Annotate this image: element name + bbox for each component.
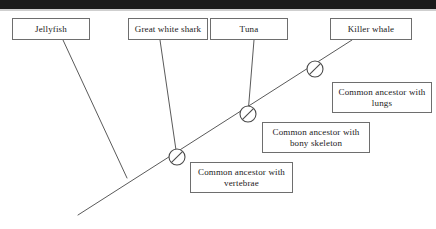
branch-to-great-white-shark — [160, 40, 177, 157]
taxon-box-great-white-shark[interactable]: Great white shark — [128, 18, 208, 40]
ancestor-label: Common ancestor with lungs — [333, 87, 431, 109]
crossed-circle-node-vertebrae[interactable] — [169, 149, 185, 165]
taxon-box-jellyfish[interactable]: Jellyfish — [12, 18, 90, 40]
ancestor-label: Common ancestor with vertebrae — [191, 167, 292, 189]
taxon-label: Great white shark — [129, 24, 207, 35]
taxon-box-tuna[interactable]: Tuna — [210, 18, 288, 40]
taxon-box-killer-whale[interactable]: Killer whale — [330, 18, 412, 40]
branch-to-jellyfish — [63, 40, 127, 178]
crossed-circle-node-lungs[interactable] — [307, 61, 323, 77]
ancestor-box-lungs[interactable]: Common ancestor with lungs — [332, 82, 432, 113]
ancestor-label: Common ancestor with bony skeleton — [263, 127, 369, 149]
taxon-label: Killer whale — [331, 24, 411, 35]
ancestor-box-bony-skeleton[interactable]: Common ancestor with bony skeleton — [262, 122, 370, 153]
cladogram-screenshot: Jellyfish Great white shark Tuna Killer … — [0, 0, 436, 229]
crossed-circle-node-bony-skeleton[interactable] — [240, 106, 256, 122]
taxon-label: Jellyfish — [13, 24, 89, 35]
taxon-label: Tuna — [211, 24, 287, 35]
ancestor-box-vertebrae[interactable]: Common ancestor with vertebrae — [190, 162, 293, 193]
